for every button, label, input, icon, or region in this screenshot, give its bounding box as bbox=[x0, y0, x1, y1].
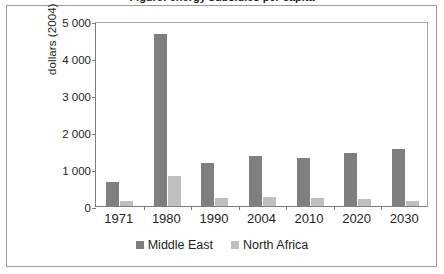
x-tick-mark bbox=[191, 206, 192, 210]
bar-middle-east bbox=[154, 34, 167, 206]
y-tick-label: 3 000 bbox=[62, 91, 91, 103]
x-tick-mark bbox=[381, 206, 382, 210]
x-tick-label: 2010 bbox=[285, 211, 333, 226]
bar-middle-east bbox=[106, 182, 119, 206]
bar-middle-east bbox=[344, 153, 357, 206]
bar-north-africa bbox=[358, 199, 371, 206]
figure-title-clipped: Figure: energy subsidies per capita bbox=[0, 0, 444, 3]
y-tick-label: 0 bbox=[85, 202, 91, 214]
bar-north-africa bbox=[263, 197, 276, 206]
bar-middle-east bbox=[249, 156, 262, 206]
x-tick-label: 1980 bbox=[143, 211, 191, 226]
bar-north-africa bbox=[215, 198, 228, 206]
x-tick-mark bbox=[334, 206, 335, 210]
legend-item: North Africa bbox=[231, 238, 308, 252]
bar-middle-east bbox=[201, 163, 214, 206]
x-tick-mark bbox=[239, 206, 240, 210]
bar-north-africa bbox=[120, 201, 133, 206]
x-tick-label: 2030 bbox=[380, 211, 428, 226]
x-tick-label: 2004 bbox=[238, 211, 286, 226]
bar-group bbox=[239, 23, 287, 206]
y-tick-label: 5 000 bbox=[62, 17, 91, 29]
y-tick-label: 1 000 bbox=[62, 165, 91, 177]
legend-label: Middle East bbox=[148, 238, 213, 252]
legend-item: Middle East bbox=[136, 238, 213, 252]
x-tick-mark bbox=[286, 206, 287, 210]
bar-group bbox=[381, 23, 429, 206]
plot-area: dollars (2004) per capita 01 0002 0003 0… bbox=[95, 22, 428, 207]
bar-middle-east bbox=[297, 158, 310, 206]
x-tick-label: 1971 bbox=[95, 211, 143, 226]
bar-group bbox=[286, 23, 334, 206]
bar-group bbox=[334, 23, 382, 206]
legend-swatch-icon bbox=[231, 241, 239, 249]
bar-north-africa bbox=[311, 198, 324, 206]
bar-group bbox=[96, 23, 144, 206]
bar-north-africa bbox=[406, 201, 419, 206]
y-axis-label: dollars (2004) per capita bbox=[46, 0, 58, 75]
chart-legend: Middle EastNorth Africa bbox=[0, 238, 444, 252]
x-tick-mark bbox=[144, 206, 145, 210]
bar-group bbox=[144, 23, 192, 206]
bar-north-africa bbox=[168, 176, 181, 206]
chart-figure: Figure: energy subsidies per capita doll… bbox=[0, 0, 444, 274]
bar-middle-east bbox=[392, 149, 405, 206]
legend-swatch-icon bbox=[136, 241, 144, 249]
y-tick-label: 2 000 bbox=[62, 128, 91, 140]
legend-label: North Africa bbox=[243, 238, 308, 252]
bar-group bbox=[191, 23, 239, 206]
y-tick-mark bbox=[92, 208, 96, 209]
x-tick-label: 2020 bbox=[333, 211, 381, 226]
y-tick-label: 4 000 bbox=[62, 54, 91, 66]
x-tick-label: 1990 bbox=[190, 211, 238, 226]
